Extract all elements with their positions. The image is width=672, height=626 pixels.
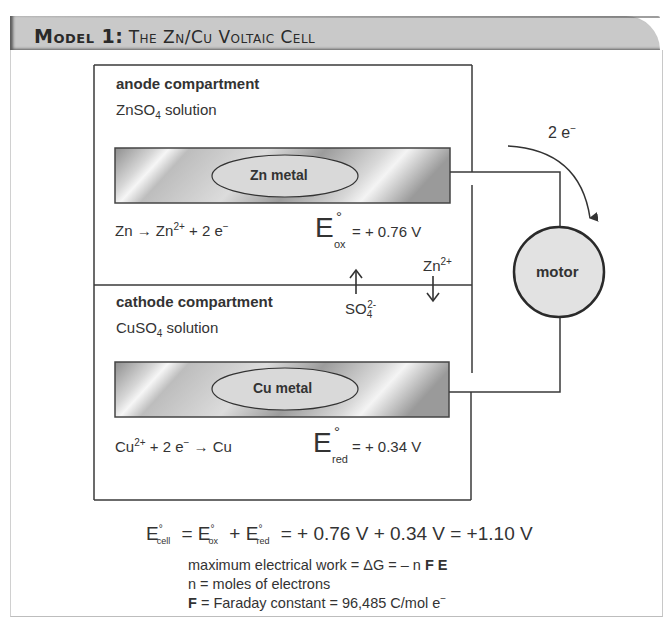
note-n: n = moles of electrons xyxy=(188,575,447,594)
zn-metal-label: Zn metal xyxy=(250,167,308,183)
motor-label: motor xyxy=(536,263,579,280)
cathode-heading: cathode compartment xyxy=(116,293,273,310)
cell-potential-equation: E°cell = E°ox + E°red = + 0.76 V + 0.34 … xyxy=(146,523,533,545)
electron-label: 2 e− xyxy=(548,124,576,142)
electron-flow-arrow xyxy=(508,146,590,218)
note-faraday: F = Faraday constant = 96,485 C/mol e− xyxy=(188,594,447,613)
note-max-work: maximum electrical work = ΔG = – n F E xyxy=(188,556,447,575)
anode-half-reaction: Zn → Zn2+ + 2 e− xyxy=(115,222,229,239)
anode-heading: anode compartment xyxy=(116,75,259,92)
anode-potential: E ° ox = + 0.76 V xyxy=(315,212,334,244)
cathode-potential: E ° red = + 0.34 V xyxy=(313,427,332,459)
cathode-solution: CuSO4 solution xyxy=(116,319,218,336)
compartment-box xyxy=(94,65,472,500)
notes: maximum electrical work = ΔG = – n F E n… xyxy=(188,556,447,613)
cathode-half-reaction: Cu2+ + 2 e− → Cu xyxy=(115,438,232,455)
anode-solution: ZnSO4 solution xyxy=(116,101,217,118)
sulfate-ion-label: SO42- xyxy=(345,300,376,317)
zinc-ion-label: Zn2+ xyxy=(423,257,452,274)
cu-metal-label: Cu metal xyxy=(253,380,312,396)
